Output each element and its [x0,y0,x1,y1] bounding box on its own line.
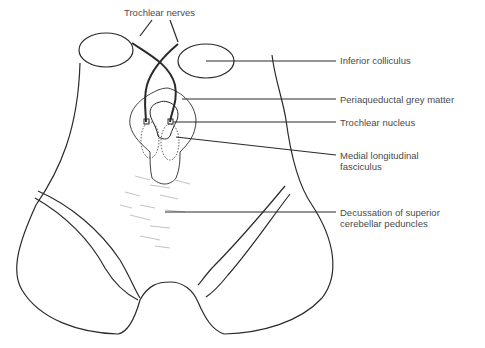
leader-trochlear-right [170,20,178,42]
midbrain-diagram [0,0,485,348]
label-decussation: Decussation of superior cerebellar pedun… [340,207,440,229]
leader-trochlear-left [140,20,152,36]
right-crus-band-outer [198,186,285,285]
label-trochlear-nucleus: Trochlear nucleus [340,117,415,128]
right-crus-band-inner [206,194,290,297]
periaqueductal-grey-outline [130,88,196,184]
label-mlf: Medial longitudinal fasciculus [340,150,419,172]
label-periaqueductal-grey: Periaqueductal grey matter [340,94,454,105]
right-mlf [161,124,179,160]
leader-mlf [176,137,336,155]
left-inferior-colliculus [79,33,133,67]
label-inferior-colliculus: Inferior colliculus [340,55,411,66]
trochlear-nerve-left [132,43,176,122]
label-trochlear-nerves: Trochlear nerves [124,7,195,18]
left-crus-band-inner [35,198,138,300]
